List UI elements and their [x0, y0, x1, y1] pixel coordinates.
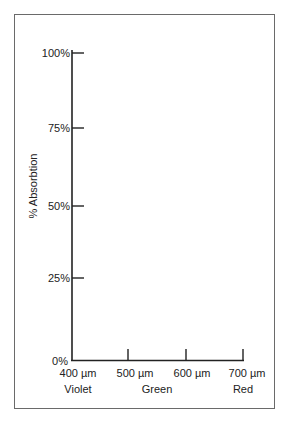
absorption-chart: 100% 75% 50% 25% 0% % Absorbtion 400 µm …: [0, 0, 286, 422]
x-tick-label-700: 700 µm: [229, 367, 266, 379]
y-tick-label-50: 50%: [48, 200, 70, 212]
x-tick-label-500: 500 µm: [117, 367, 154, 379]
x-tick-label-400: 400 µm: [60, 367, 97, 379]
y-tick-label-75: 75%: [48, 122, 70, 134]
y-axis-label: % Absorbtion: [27, 154, 39, 219]
y-tick-label-100: 100%: [42, 47, 70, 59]
color-label-violet: Violet: [64, 383, 91, 395]
color-label-red: Red: [233, 383, 253, 395]
color-label-green: Green: [142, 383, 173, 395]
y-tick-label-25: 25%: [48, 272, 70, 284]
y-tick-label-0: 0%: [52, 355, 68, 367]
x-tick-label-600: 600 µm: [174, 367, 211, 379]
